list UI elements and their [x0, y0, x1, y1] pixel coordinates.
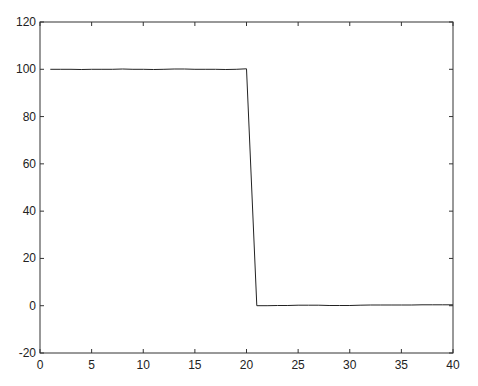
x-tick-label: 0 — [37, 358, 44, 372]
x-tick-label: 20 — [240, 358, 254, 372]
x-tick-label: 25 — [291, 358, 305, 372]
y-tick-label: 100 — [16, 62, 36, 76]
y-tick-label: 40 — [23, 204, 37, 218]
y-tick-label: 20 — [23, 251, 37, 265]
y-axis: -20020406080100120 — [16, 15, 453, 360]
x-tick-label: 30 — [343, 358, 357, 372]
y-tick-label: 60 — [23, 157, 37, 171]
x-tick-label: 35 — [395, 358, 409, 372]
x-tick-label: 5 — [88, 358, 95, 372]
y-tick-label: 80 — [23, 110, 37, 124]
y-tick-label: 0 — [29, 299, 36, 313]
y-tick-label: 120 — [16, 15, 36, 29]
y-tick-label: -20 — [19, 346, 37, 360]
x-tick-label: 40 — [446, 358, 460, 372]
x-axis: 0510152025303540 — [37, 22, 460, 372]
x-tick-label: 15 — [188, 358, 202, 372]
line-chart: 0510152025303540 -20020406080100120 — [0, 0, 478, 386]
x-tick-label: 10 — [137, 358, 151, 372]
series-line — [50, 69, 453, 306]
